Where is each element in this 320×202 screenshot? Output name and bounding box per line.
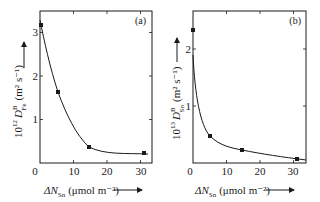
panel-label-b: (b)	[289, 15, 301, 27]
ylabel-units: (m² s⁻¹)	[170, 66, 183, 102]
x-tick-label: 0	[187, 165, 193, 177]
x-tick-labels-a: 0 10 20 30	[32, 165, 147, 177]
y-axis-label-a: 1012DBFe(m² s⁻¹)	[11, 65, 28, 138]
y-tick-label: 2	[33, 70, 39, 82]
xlabel-sub: Sn	[209, 191, 217, 199]
panel-a: 0 10 20 30 1 2 3 (a) 1012DBFe(m² s⁻¹)	[11, 11, 152, 199]
svg-text:1012DBFe(m² s⁻¹): 1012DBFe(m² s⁻¹)	[11, 65, 28, 138]
ylabel-sub: Fe	[20, 103, 28, 110]
figure-svg: 0 10 20 30 1 2 3 (a) 1012DBFe(m² s⁻¹)	[0, 0, 320, 202]
data-point	[56, 90, 60, 94]
x-axis-label-a: ΔNSn(μmol m⁻²)	[43, 184, 119, 199]
ylabel-exp: 13	[169, 122, 177, 130]
data-points-a	[39, 23, 146, 155]
x-tick-labels-b: 0 10 20 30	[187, 165, 299, 177]
y-tick-label: 1	[33, 113, 39, 125]
data-point	[295, 157, 299, 161]
y-axis-label-b: 1013DBSn(m² s⁻¹)	[169, 66, 186, 140]
xlabel-symbol: ΔN	[194, 184, 209, 196]
ylabel-sub: Sn	[178, 104, 186, 112]
svg-text:1013DBSn(m² s⁻¹): 1013DBSn(m² s⁻¹)	[169, 66, 186, 140]
x-tick-label: 20	[255, 165, 267, 177]
panel-b: 0 10 20 30 1 2 (b) 1013DBSn(m² s⁻¹) ΔNSn…	[169, 11, 306, 199]
ylabel-exp: 12	[11, 120, 19, 128]
y-tick-label: 2	[186, 43, 192, 55]
xlabel-symbol: ΔN	[43, 184, 58, 196]
x-tick-label: 30	[288, 165, 300, 177]
data-point	[191, 28, 195, 32]
x-tick-label: 30	[136, 165, 148, 177]
data-point	[240, 148, 244, 152]
fit-curve-a	[40, 20, 148, 154]
data-point	[208, 134, 212, 138]
fit-curve-b	[193, 55, 306, 160]
plot-frame-b	[193, 11, 306, 163]
ticks-b	[193, 11, 306, 163]
xlabel-units: (μmol m⁻²)	[68, 184, 119, 197]
x-tick-label: 10	[222, 165, 234, 177]
data-point	[142, 151, 146, 155]
figure: 0 10 20 30 1 2 3 (a) 1012DBFe(m² s⁻¹)	[0, 0, 320, 202]
ylabel-prefix: 10	[12, 127, 24, 139]
data-point	[39, 23, 43, 27]
xlabel-units: (μmol m⁻²)	[219, 184, 270, 197]
x-tick-label: 10	[69, 165, 81, 177]
y-tick-labels-b: 1 2	[186, 43, 192, 112]
ylabel-sup: B	[169, 107, 177, 112]
data-point	[87, 145, 91, 149]
x-tick-label: 0	[32, 165, 38, 177]
panel-label-a: (a)	[135, 15, 146, 27]
xlabel-sub: Sn	[58, 191, 66, 199]
ylabel-units: (m² s⁻¹)	[12, 65, 25, 101]
y-tick-labels-a: 1 2 3	[33, 26, 39, 125]
ylabel-prefix: 10	[170, 129, 182, 141]
x-tick-label: 20	[102, 165, 114, 177]
ylabel-sup: B	[11, 105, 19, 110]
y-tick-label: 1	[186, 100, 192, 112]
x-axis-label-b: ΔNSn(μmol m⁻²)	[194, 184, 270, 199]
y-tick-label: 3	[33, 26, 39, 38]
data-points-b	[191, 28, 299, 161]
